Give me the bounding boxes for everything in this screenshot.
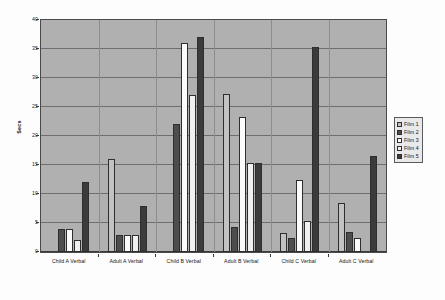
bar-group: [329, 20, 387, 252]
bar: [255, 163, 262, 252]
y-tick-label: 20: [4, 132, 38, 138]
legend-swatch-icon: [397, 146, 402, 151]
bar: [82, 182, 89, 252]
bar-group: [156, 20, 214, 252]
bar: [74, 240, 81, 252]
legend-swatch-icon: [397, 130, 402, 135]
y-tick-mark: [36, 222, 39, 223]
y-tick-mark: [36, 164, 39, 165]
legend-label: Film 5: [404, 153, 419, 159]
legend-item[interactable]: Film 3: [397, 136, 419, 144]
legend-item[interactable]: Film 1: [397, 120, 419, 128]
y-tick-label: 35: [4, 45, 38, 51]
bar: [296, 180, 303, 252]
bar: [189, 95, 196, 252]
x-axis-labels: Child A VerbalAdult A VerbalChild B Verb…: [40, 258, 387, 272]
y-tick-label: 0: [4, 248, 38, 254]
y-tick-mark: [36, 135, 39, 136]
bar: [124, 235, 131, 252]
group-separator: [214, 20, 215, 252]
legend-swatch-icon: [397, 122, 402, 127]
group-separator: [329, 20, 330, 252]
bar-group: [41, 20, 99, 252]
x-tick-label: Child A Verbal: [52, 258, 86, 264]
y-tick-label: 5: [4, 219, 38, 225]
bar-group: [99, 20, 157, 252]
legend-item[interactable]: Film 4: [397, 144, 419, 152]
bar: [280, 233, 287, 252]
y-tick-mark: [36, 193, 39, 194]
x-tick-mark: [328, 254, 329, 257]
y-tick-label: 25: [4, 103, 38, 109]
y-axis-ticks: 0510152025303540: [0, 19, 38, 253]
legend-label: Film 2: [404, 129, 419, 135]
y-tick-label: 40: [4, 16, 38, 22]
bar: [312, 47, 319, 252]
x-tick-label: Adult B Verbal: [224, 258, 258, 264]
y-tick-mark: [36, 106, 39, 107]
y-tick-label: 15: [4, 161, 38, 167]
bar: [181, 43, 188, 252]
bar: [288, 238, 295, 252]
y-tick-label: 30: [4, 74, 38, 80]
bar: [116, 235, 123, 252]
bar: [58, 229, 65, 252]
bar: [304, 221, 311, 252]
y-tick-label: 10: [4, 190, 38, 196]
x-tick-label: Child B Verbal: [167, 258, 201, 264]
bar: [66, 229, 73, 252]
bar-chart: Secs 0510152025303540 Child A VerbalAdul…: [0, 0, 445, 300]
bar: [239, 117, 246, 252]
bar: [197, 37, 204, 252]
x-tick-label: Adult C Verbal: [339, 258, 374, 264]
legend: Film 1Film 2Film 3Film 4Film 5: [394, 117, 423, 163]
group-separator: [99, 20, 100, 252]
x-tick-label: Adult A Verbal: [109, 258, 143, 264]
legend-label: Film 3: [404, 137, 419, 143]
plot-area: [40, 19, 387, 253]
bar: [132, 235, 139, 252]
bar-group: [214, 20, 272, 252]
y-tick-mark: [36, 48, 39, 49]
bar: [173, 124, 180, 252]
bar: [354, 238, 361, 253]
legend-swatch-icon: [397, 138, 402, 143]
bar: [140, 206, 147, 252]
legend-item[interactable]: Film 5: [397, 152, 419, 160]
x-tick-mark: [98, 254, 99, 257]
bar: [108, 159, 115, 252]
bar: [370, 156, 377, 252]
bar: [247, 163, 254, 252]
y-tick-mark: [36, 19, 39, 20]
x-tick-mark: [155, 254, 156, 257]
group-separator: [271, 20, 272, 252]
bar: [346, 232, 353, 252]
x-tick-mark: [270, 254, 271, 257]
y-tick-mark: [36, 251, 39, 252]
group-separator: [156, 20, 157, 252]
bar: [231, 227, 238, 252]
x-tick-label: Child C Verbal: [281, 258, 316, 264]
legend-swatch-icon: [397, 154, 402, 159]
x-tick-mark: [213, 254, 214, 257]
legend-label: Film 1: [404, 121, 419, 127]
bar-group: [271, 20, 329, 252]
legend-item[interactable]: Film 2: [397, 128, 419, 136]
y-tick-mark: [36, 77, 39, 78]
legend-label: Film 4: [404, 145, 419, 151]
bar: [223, 94, 230, 252]
bar: [338, 203, 345, 252]
